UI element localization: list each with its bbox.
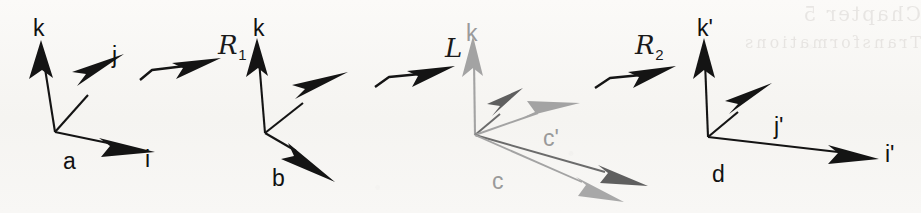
axis-label-k-frame-c: k xyxy=(466,22,478,45)
operator-label-l: L xyxy=(410,9,463,87)
vector-second-frame-b xyxy=(265,72,348,133)
frame-b-vectors xyxy=(246,38,348,182)
origin-label-a: a xyxy=(63,150,76,173)
operator-label-r2: R2 xyxy=(600,6,664,88)
operator-r1-subscript: 1 xyxy=(238,46,247,63)
operator-r1-letter: R xyxy=(218,30,238,60)
vector-c-prime-frame-c xyxy=(475,101,580,135)
operator-r2-subscript: 2 xyxy=(655,46,664,63)
vector-k-frame-b xyxy=(246,38,268,133)
axis-label-i-frame-a: i xyxy=(145,148,150,171)
operator-l-letter: L xyxy=(445,33,463,63)
operator-label-r1: R1 xyxy=(183,6,247,88)
vector-i-prime-frame-d xyxy=(708,137,879,164)
axis-label-j-prime-frame-d: j' xyxy=(774,115,784,138)
axis-label-k-frame-a: k xyxy=(33,17,45,40)
frame-a-vectors xyxy=(29,40,155,157)
axis-label-c-prime-frame-c: c' xyxy=(543,127,559,150)
vector-k-frame-a xyxy=(29,40,55,132)
vector-short-upright-frame-c xyxy=(475,88,523,135)
vector-k-prime-frame-d xyxy=(693,38,715,137)
axis-label-i-prime-frame-d: i' xyxy=(885,143,895,166)
operator-r2-letter: R xyxy=(635,30,655,60)
axis-label-j-frame-a: j xyxy=(112,44,117,67)
origin-label-b: b xyxy=(272,167,285,190)
vector-k-frame-c xyxy=(462,36,483,135)
origin-label-d: d xyxy=(712,163,725,186)
axis-label-k-prime-frame-d: k' xyxy=(697,17,713,40)
axis-label-k-frame-b: k xyxy=(253,17,265,40)
frame-d-vectors xyxy=(693,38,879,164)
figure-root: Chapter 5 Transformations xyxy=(0,0,921,213)
origin-label-c: c xyxy=(492,170,504,193)
vector-j-prime-frame-d xyxy=(708,83,772,137)
